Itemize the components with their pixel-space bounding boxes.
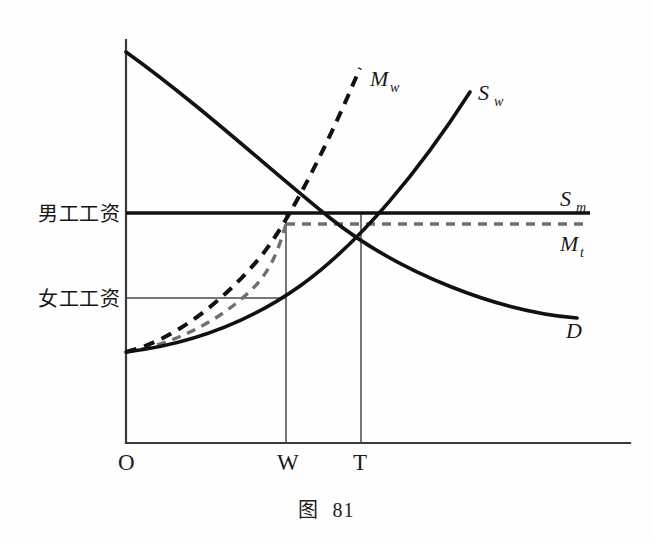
curve-label-sm: S m: [560, 186, 586, 215]
y-label-male-wage: 男工工资: [38, 202, 120, 226]
y-label-female-wage: 女工工资: [38, 287, 120, 311]
y-value-labels-group: 男工工资 女工工资: [38, 202, 120, 311]
curve-label-sw-subscript: w: [494, 94, 504, 109]
curve-sw-path: [126, 92, 470, 352]
economics-diagram: M w S w S m M t D O W T: [0, 0, 652, 543]
figure-caption-prefix: 图: [298, 498, 319, 522]
curve-mt: [126, 224, 590, 352]
curve-label-mw: M w: [369, 66, 400, 95]
guide-lines-group: [126, 213, 361, 443]
axis-tick-label-w: W: [277, 450, 299, 475]
curve-label-mt-subscript: t: [580, 245, 585, 260]
curve-label-sm-main: S: [560, 186, 571, 211]
curve-label-mw-subscript: w: [390, 80, 400, 95]
curve-labels-group: M w S w S m M t D: [369, 66, 586, 343]
axis-tick-labels-group: O W T: [118, 450, 367, 475]
curve-label-mw-main: M: [369, 66, 390, 91]
curve-label-mt: M t: [559, 231, 585, 260]
curve-label-sm-subscript: m: [576, 200, 586, 215]
curve-sw: [126, 92, 470, 352]
curve-label-d-main: D: [565, 318, 582, 343]
curve-d: [126, 52, 577, 318]
curve-mw-path: [126, 68, 360, 352]
curve-mw: [126, 68, 360, 352]
curve-d-path: [126, 52, 577, 318]
curve-label-mt-main: M: [559, 231, 580, 256]
axis-tick-label-t: T: [353, 450, 367, 475]
curve-label-d: D: [565, 318, 582, 343]
figure-page: M w S w S m M t D O W T: [0, 0, 652, 543]
figure-caption: 图81: [0, 494, 652, 523]
figure-caption-number: 81: [333, 499, 355, 521]
axis-origin-label: O: [118, 450, 135, 475]
curve-label-sw-main: S: [478, 80, 489, 105]
curve-label-sw: S w: [478, 80, 504, 109]
axes-group: [126, 40, 630, 443]
